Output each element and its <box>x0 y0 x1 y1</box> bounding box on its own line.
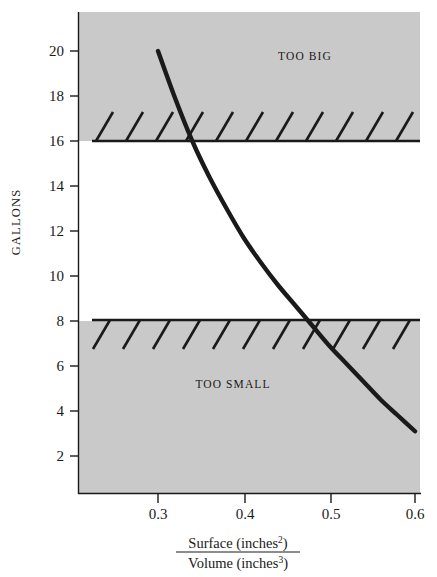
x-tick-label-06: 0.6 <box>406 506 425 522</box>
y-tick-label-16: 16 <box>49 133 65 149</box>
y-tick-label-20: 20 <box>49 43 64 59</box>
x-tick-label-04: 0.4 <box>236 506 255 522</box>
y-tick-label-4: 4 <box>57 403 65 419</box>
surface-to-volume-gallons-chart: 20 18 16 14 12 10 8 6 4 2 0.3 0.4 0.5 0.… <box>0 0 437 577</box>
too-small-region <box>78 321 420 494</box>
x-axis-denominator-text: Volume (inches <box>188 555 279 572</box>
chart-figure: 20 18 16 14 12 10 8 6 4 2 0.3 0.4 0.5 0.… <box>0 0 437 577</box>
too-big-region <box>78 12 420 141</box>
x-axis-denominator-close: ) <box>283 555 288 572</box>
x-axis-title: Surface (inches2) Volume (inches3) <box>176 535 300 572</box>
y-tick-label-18: 18 <box>49 88 64 104</box>
x-tick-label-03: 0.3 <box>149 506 168 522</box>
y-tick-label-10: 10 <box>49 268 64 284</box>
too-small-label: TOO SMALL <box>195 378 270 390</box>
y-tick-label-14: 14 <box>49 178 65 194</box>
x-axis-numerator-text: Surface (inches <box>188 535 278 552</box>
y-tick-label-6: 6 <box>57 358 65 374</box>
too-big-label: TOO BIG <box>278 50 332 62</box>
y-tick-label-2: 2 <box>57 448 65 464</box>
y-tick-label-12: 12 <box>49 223 64 239</box>
x-axis-numerator: Surface (inches2) <box>188 535 288 552</box>
x-axis-numerator-close: ) <box>283 535 288 552</box>
x-axis-denominator: Volume (inches3) <box>188 555 288 572</box>
x-tick-marks <box>158 494 415 503</box>
y-tick-marks <box>70 51 78 456</box>
x-tick-label-05: 0.5 <box>322 506 341 522</box>
y-axis-title: GALLONS <box>9 189 23 256</box>
y-tick-label-8: 8 <box>57 313 65 329</box>
